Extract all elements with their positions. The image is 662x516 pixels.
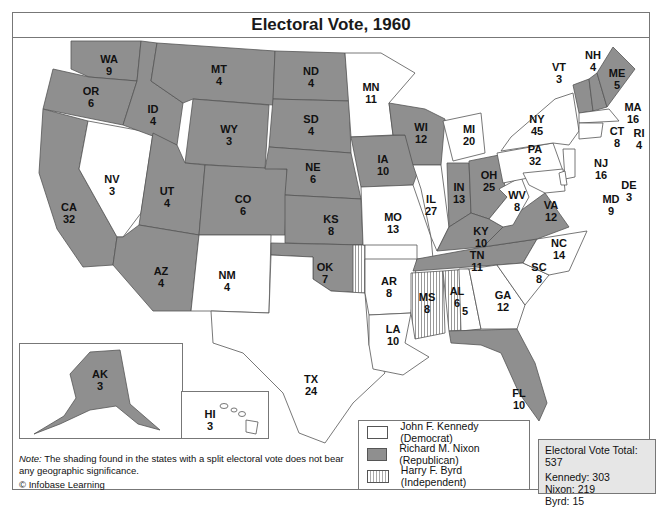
state-votes-mi: 20 [463, 135, 475, 147]
state-label-fl: FL [512, 387, 526, 399]
state-votes-co: 6 [240, 205, 246, 217]
note-text: The shading found in the states with a s… [19, 453, 344, 476]
state-label-me: ME [609, 67, 626, 79]
state-label-wi: WI [414, 121, 427, 133]
state-label-ne: NE [305, 161, 320, 173]
state-ct [579, 123, 603, 139]
state-votes-sc: 8 [536, 273, 542, 285]
state-label-ky: KY [473, 225, 489, 237]
state-votes-nh: 4 [590, 61, 597, 73]
map-title: Electoral Vote, 1960 [13, 13, 649, 38]
swatch-gray-icon [367, 448, 387, 461]
state-votes-me: 5 [614, 79, 620, 91]
state-votes-nc: 14 [553, 249, 566, 261]
state-label-hi: HI [205, 408, 216, 420]
state-votes-il: 27 [425, 205, 437, 217]
state-label-sd: SD [303, 113, 318, 125]
alaska-map: AK 3 [20, 344, 182, 438]
map-frame: Electoral Vote, 1960 [12, 12, 650, 490]
state-label-mi: MI [463, 123, 475, 135]
state-votes-mt: 4 [216, 75, 223, 87]
state-label-ct: CT [610, 125, 625, 137]
state-votes-nj: 16 [595, 169, 607, 181]
totals-kennedy: Kennedy: 303 [545, 471, 649, 483]
totals-box: Electoral Vote Total: 537 Kennedy: 303 N… [538, 439, 656, 494]
state-votes-ut: 4 [164, 197, 171, 209]
state-label-nh: NH [585, 49, 601, 61]
state-votes-ks: 8 [328, 225, 334, 237]
legend: John F. Kennedy (Democrat) Richard M. Ni… [358, 420, 530, 490]
hawaii-map: HI 3 [182, 392, 268, 438]
state-votes-tn: 11 [471, 261, 483, 273]
state-votes-pa: 32 [529, 155, 541, 167]
state-votes-md: 9 [608, 205, 614, 217]
state-label-de: DE [621, 179, 636, 191]
totals-nixon: Nixon: 219 [545, 483, 649, 495]
hawaii-inset: HI 3 [181, 391, 269, 439]
state-votes-ri: 4 [636, 139, 643, 151]
swatch-white-icon [367, 426, 388, 439]
state-votes-al: 6 [454, 297, 460, 309]
state-label-in: IN [454, 181, 465, 193]
state-label-nv: NV [104, 173, 120, 185]
note: Note: The shading found in the states wi… [19, 453, 349, 477]
state-label-ri: RI [634, 127, 645, 139]
swatch-striped-icon [367, 470, 389, 483]
state-label-co: CO [235, 193, 252, 205]
legend-item-democrat: John F. Kennedy (Democrat) [359, 421, 529, 443]
state-votes-wa: 9 [106, 65, 112, 77]
state-votes-nv: 3 [109, 185, 115, 197]
state-md [523, 169, 565, 193]
state-label-pa: PA [528, 143, 543, 155]
state-votes-ne: 6 [310, 173, 316, 185]
legend-item-republican: Richard M. Nixon (Republican) [359, 443, 529, 465]
state-votes-oh: 25 [483, 181, 495, 193]
state-label-md: MD [602, 193, 619, 205]
state-votes-wv: 8 [514, 201, 520, 213]
totals-header: Electoral Vote Total: 537 [545, 444, 649, 468]
alaska-inset: AK 3 [19, 343, 183, 439]
state-label-wy: WY [220, 123, 238, 135]
state-votes-fl: 10 [513, 399, 525, 411]
state-label-ak: AK [92, 368, 108, 380]
state-votes-wy: 3 [226, 135, 232, 147]
state-label-nj: NJ [594, 157, 608, 169]
state-votes-ia: 10 [377, 165, 389, 177]
state-ok-split [353, 245, 365, 293]
state-label-mt: MT [211, 63, 227, 75]
state-label-ia: IA [378, 153, 389, 165]
credit: © Infobase Learning [19, 479, 105, 490]
state-label-mn: MN [362, 81, 379, 93]
state-label-az: AZ [154, 265, 169, 277]
state-votes-ny: 45 [531, 125, 543, 137]
state-votes-nm: 4 [224, 281, 231, 293]
state-votes-ky: 10 [475, 237, 487, 249]
state-label-ar: AR [381, 275, 397, 287]
state-votes-nd: 4 [308, 77, 315, 89]
state-label-ma: MA [624, 101, 641, 113]
state-votes-ok: 7 [322, 273, 328, 285]
state-label-or: OR [83, 85, 100, 97]
state-votes-ak: 3 [97, 380, 103, 392]
state-label-ca: CA [61, 201, 77, 213]
state-label-id: ID [148, 103, 159, 115]
state-votes-ca: 32 [63, 213, 75, 225]
state-votes-va: 12 [545, 211, 557, 223]
state-label-mo: MO [384, 211, 402, 223]
state-split-al: 5 [462, 305, 468, 317]
state-label-al: AL [450, 285, 465, 297]
state-label-ms: MS [419, 291, 436, 303]
state-label-tn: TN [470, 249, 485, 261]
state-votes-la: 10 [387, 335, 399, 347]
state-votes-vt: 3 [556, 73, 562, 85]
state-label-wv: WV [508, 189, 526, 201]
state-votes-az: 4 [158, 277, 165, 289]
state-label-nm: NM [218, 269, 235, 281]
state-votes-in: 13 [453, 193, 465, 205]
state-label-nc: NC [551, 237, 567, 249]
state-label-tx: TX [304, 373, 319, 385]
state-votes-ma: 16 [627, 113, 639, 125]
state-label-wa: WA [100, 53, 118, 65]
note-label: Note: [19, 453, 42, 464]
state-label-ok: OK [317, 261, 334, 273]
